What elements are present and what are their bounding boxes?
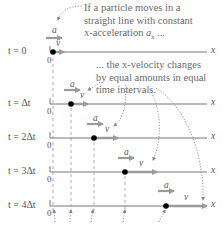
velocity-arrows [53, 52, 207, 206]
particle-dots [50, 49, 169, 209]
motion-diagram: If a particle moves in a straight line w… [0, 0, 223, 225]
axis-lines [50, 52, 207, 206]
diagram-graphics [0, 0, 223, 225]
guide-lines [53, 58, 125, 212]
acceleration-arrows [46, 38, 174, 191]
